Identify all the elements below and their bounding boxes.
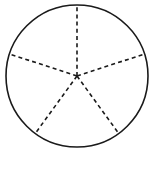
circle-fifths-diagram — [0, 0, 151, 173]
figure-canvas — [0, 0, 151, 173]
